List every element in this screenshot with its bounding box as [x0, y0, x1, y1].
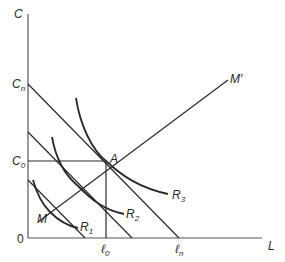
r3-label: R3 — [172, 189, 185, 204]
r2-label: R2 — [126, 208, 139, 223]
point-a-label: A — [110, 153, 118, 165]
c0-sub: 0 — [21, 161, 25, 170]
r3-base: R — [172, 188, 181, 202]
origin-label: 0 — [17, 233, 24, 245]
curve-r2 — [52, 137, 124, 214]
c0-label: C0 — [12, 155, 25, 170]
ln-label: ℓn — [175, 243, 183, 258]
x-axis-label: L — [268, 240, 275, 252]
r2-base: R — [126, 207, 135, 221]
diagram-canvas: C L 0 Cn C0 ℓ0 ℓn A M M′ R1 R2 R3 — [0, 0, 285, 262]
r1-label: R1 — [80, 221, 93, 236]
cn-sub: n — [21, 84, 25, 93]
r1-base: R — [80, 220, 89, 234]
y-axis-label: C — [14, 8, 23, 20]
c0-base: C — [12, 154, 21, 168]
point-m-label: M — [37, 213, 47, 225]
expansion-path — [38, 80, 228, 222]
r1-sub: 1 — [89, 227, 93, 236]
cn-label: Cn — [12, 78, 25, 93]
r2-sub: 2 — [135, 214, 139, 223]
ln-sub: n — [179, 249, 183, 258]
l0-label: ℓ0 — [101, 243, 109, 258]
r3-sub: 3 — [181, 195, 185, 204]
point-m-prime-label: M′ — [230, 73, 242, 85]
cn-base: C — [12, 77, 21, 91]
l0-sub: 0 — [105, 249, 109, 258]
